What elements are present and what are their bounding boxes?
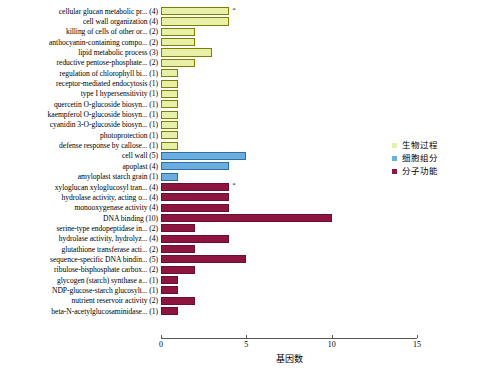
bar-row: nutrient reservoir activity (2) bbox=[0, 296, 483, 306]
bar-row: xyloglucan xyloglucosyl tran... (4)* bbox=[0, 182, 483, 192]
bar-track bbox=[161, 306, 483, 316]
bar-row: quercetin O-glucoside biosyn... (1) bbox=[0, 99, 483, 109]
bar-track bbox=[161, 254, 483, 264]
bar-row-label: killing of cells of other or... (2) bbox=[0, 27, 161, 36]
bar-track bbox=[161, 120, 483, 130]
x-axis-tick-label: 15 bbox=[413, 340, 421, 350]
bar-row: killing of cells of other or... (2) bbox=[0, 27, 483, 37]
bar-track bbox=[161, 27, 483, 37]
bar-row: receptor-mediated endocytosis (1) bbox=[0, 78, 483, 88]
bar bbox=[161, 7, 229, 15]
bar-row: reductive pentose-phosphate... (2) bbox=[0, 58, 483, 68]
bar-row-label: quercetin O-glucoside biosyn... (1) bbox=[0, 100, 161, 109]
x-axis-tick bbox=[332, 335, 333, 338]
bar bbox=[161, 297, 195, 305]
bar bbox=[161, 90, 178, 98]
bar bbox=[161, 193, 229, 201]
bar-track bbox=[161, 109, 483, 119]
bar-row-label: kaempferol O-glucoside biosyn... (1) bbox=[0, 110, 161, 119]
bar-row: cellular glucan metabolic pr... (4)* bbox=[0, 6, 483, 16]
x-axis-tick bbox=[161, 335, 162, 338]
bar-row-label: apoplast (4) bbox=[0, 162, 161, 171]
bar-row-label: reductive pentose-phosphate... (2) bbox=[0, 58, 161, 67]
bar-row: type I hypersensitivity (1) bbox=[0, 89, 483, 99]
bar-row: monooxygenase activity (4) bbox=[0, 203, 483, 213]
bar bbox=[161, 173, 178, 181]
bar bbox=[161, 183, 229, 191]
bar-track bbox=[161, 296, 483, 306]
bar-row: anthocyanin-containing compo... (2) bbox=[0, 37, 483, 47]
legend-label-bp: 生物过程 bbox=[402, 140, 438, 150]
x-axis-tick bbox=[246, 335, 247, 338]
bar-track bbox=[161, 68, 483, 78]
bar-row-label: hydrolase activity, acting o... (4) bbox=[0, 193, 161, 202]
bar-row-label: DNA binding (10) bbox=[0, 214, 161, 223]
bar bbox=[161, 69, 178, 77]
bar bbox=[161, 59, 195, 67]
bar bbox=[161, 224, 195, 232]
bar-row-label: cell wall (5) bbox=[0, 151, 161, 160]
bar-row-label: sequence-specific DNA bindin... (5) bbox=[0, 255, 161, 264]
legend: 生物过程 细胞组分 分子功能 bbox=[392, 139, 438, 178]
bar bbox=[161, 38, 195, 46]
bar-row: glycogen (starch) synthase a... (1) bbox=[0, 275, 483, 285]
bar bbox=[161, 245, 195, 253]
legend-swatch-icon-mf bbox=[392, 169, 397, 174]
bar-row-label: cell wall organization (4) bbox=[0, 17, 161, 26]
bar-row-label: regulation of chlorophyll bi... (1) bbox=[0, 69, 161, 78]
bar-track bbox=[161, 99, 483, 109]
bar-row: ribulose-bisphosphate carbox... (2) bbox=[0, 265, 483, 275]
bar-track bbox=[161, 213, 483, 223]
x-axis-line bbox=[161, 338, 417, 339]
bar-track bbox=[161, 203, 483, 213]
x-axis-tick-label: 10 bbox=[328, 340, 336, 350]
bar-row-label: photoprotection (1) bbox=[0, 131, 161, 140]
legend-swatch-icon-cc bbox=[392, 156, 397, 161]
bar bbox=[161, 255, 246, 263]
legend-swatch-icon-bp bbox=[392, 143, 397, 148]
bar-row-label: serine-type endopeptidase in... (2) bbox=[0, 224, 161, 233]
bar bbox=[161, 286, 178, 294]
bar bbox=[161, 121, 178, 129]
bar bbox=[161, 307, 178, 315]
bar-row-label: ribulose-bisphosphate carbox... (2) bbox=[0, 265, 161, 274]
bar bbox=[161, 152, 246, 160]
bar-row-label: cellular glucan metabolic pr... (4) bbox=[0, 7, 161, 16]
bar-row: serine-type endopeptidase in... (2) bbox=[0, 223, 483, 233]
bar-row: NDP-glucose-starch glucosylt... (1) bbox=[0, 285, 483, 295]
bar-track bbox=[161, 58, 483, 68]
x-axis-tick-label: 0 bbox=[159, 340, 163, 350]
bar-track bbox=[161, 89, 483, 99]
bar-row: hydrolase activity, hydrolyz... (4) bbox=[0, 234, 483, 244]
bar-row-label: hydrolase activity, hydrolyz... (4) bbox=[0, 234, 161, 243]
bar-track bbox=[161, 244, 483, 254]
x-axis-tick bbox=[417, 335, 418, 338]
bar-track bbox=[161, 192, 483, 202]
bar-row-label: NDP-glucose-starch glucosylt... (1) bbox=[0, 286, 161, 295]
bar-row: DNA binding (10) bbox=[0, 213, 483, 223]
bar-track bbox=[161, 78, 483, 88]
bar bbox=[161, 142, 178, 150]
bar-row-label: lipid metabolic process (3) bbox=[0, 48, 161, 57]
bar bbox=[161, 214, 332, 222]
bar bbox=[161, 28, 195, 36]
bar-track bbox=[161, 223, 483, 233]
bar bbox=[161, 131, 178, 139]
legend-label-cc: 细胞组分 bbox=[402, 153, 438, 163]
x-axis-tick-label: 5 bbox=[244, 340, 248, 350]
bar bbox=[161, 80, 178, 88]
bar-row-label: glycogen (starch) synthase a... (1) bbox=[0, 276, 161, 285]
bar-row: glutathione transferase acti... (2) bbox=[0, 244, 483, 254]
bar-row-label: amyloplast starch grain (1) bbox=[0, 172, 161, 181]
bar-row-label: nutrient reservoir activity (2) bbox=[0, 296, 161, 305]
bar bbox=[161, 17, 229, 25]
bar-track bbox=[161, 275, 483, 285]
bar-row-label: beta-N-acetylglucosaminidase... (1) bbox=[0, 307, 161, 316]
bar-row: regulation of chlorophyll bi... (1) bbox=[0, 68, 483, 78]
bar-track bbox=[161, 285, 483, 295]
bar bbox=[161, 266, 195, 274]
legend-label-mf: 分子功能 bbox=[402, 166, 438, 176]
bar-row: sequence-specific DNA bindin... (5) bbox=[0, 254, 483, 264]
bar-row-label: glutathione transferase acti... (2) bbox=[0, 245, 161, 254]
bar bbox=[161, 100, 178, 108]
